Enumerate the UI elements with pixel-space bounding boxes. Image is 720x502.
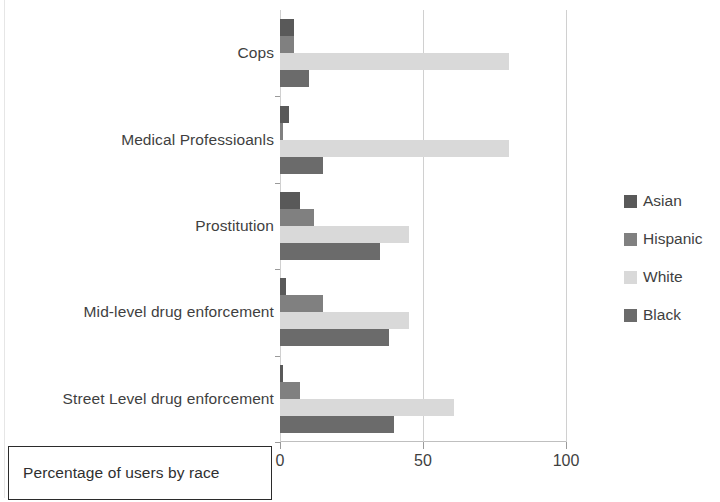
x-tick-label: 0 [276, 452, 285, 470]
bar[interactable] [280, 295, 323, 312]
bar-chart: CopsMedical ProfessioanlsProstitutionMid… [0, 0, 720, 502]
axis-title-label: Percentage of users by race [23, 464, 220, 482]
bar[interactable] [280, 140, 509, 157]
bar[interactable] [280, 192, 300, 209]
bar-group [280, 356, 566, 442]
bar[interactable] [280, 123, 283, 140]
legend-swatch-icon [624, 309, 637, 322]
legend-item-white[interactable]: White [624, 258, 720, 296]
bar-group [280, 183, 566, 269]
legend-item-hispanic[interactable]: Hispanic [624, 220, 720, 258]
bar[interactable] [280, 226, 409, 243]
axis-title-box: Percentage of users by race [8, 446, 272, 500]
bar[interactable] [280, 157, 323, 174]
bar[interactable] [280, 243, 380, 260]
legend-label: White [643, 268, 683, 286]
legend-item-black[interactable]: Black [624, 296, 720, 334]
legend-swatch-icon [624, 233, 637, 246]
x-tick-mark [566, 442, 567, 449]
legend-item-asian[interactable]: Asian [624, 182, 720, 220]
bar[interactable] [280, 365, 283, 382]
bar-group [280, 96, 566, 182]
x-tick-mark [280, 442, 281, 449]
bar[interactable] [280, 278, 286, 295]
x-tick-label: 100 [553, 452, 580, 470]
bar[interactable] [280, 19, 294, 36]
gridline-100 [566, 10, 567, 442]
category-label: Mid-level drug enforcement [19, 302, 274, 322]
bar[interactable] [280, 53, 509, 70]
legend-label: Black [643, 306, 681, 324]
legend-label: Asian [643, 192, 682, 210]
category-label: Cops [19, 43, 274, 63]
bar[interactable] [280, 399, 454, 416]
bar[interactable] [280, 329, 389, 346]
bar-group [280, 10, 566, 96]
plot-area [280, 10, 566, 442]
legend-swatch-icon [624, 271, 637, 284]
bar[interactable] [280, 209, 314, 226]
bar-group [280, 269, 566, 355]
legend: AsianHispanicWhiteBlack [624, 182, 720, 334]
category-label: Prostitution [19, 216, 274, 236]
legend-swatch-icon [624, 195, 637, 208]
bar[interactable] [280, 36, 294, 53]
x-tick-label: 50 [414, 452, 432, 470]
legend-label: Hispanic [643, 230, 702, 248]
bar[interactable] [280, 382, 300, 399]
bar[interactable] [280, 106, 289, 123]
bar[interactable] [280, 312, 409, 329]
x-tick-mark [423, 442, 424, 449]
category-label: Medical Professioanls [19, 130, 274, 150]
bar[interactable] [280, 416, 394, 433]
bar[interactable] [280, 70, 309, 87]
category-label: Street Level drug enforcement [19, 389, 274, 409]
